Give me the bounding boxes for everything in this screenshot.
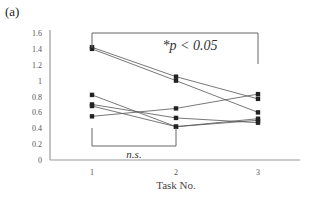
ns-bracket [92,128,176,146]
y-tick-label: 0.2 [32,140,42,149]
data-point-marker [174,74,178,78]
data-point-marker [256,110,260,114]
y-tick-label: 1.2 [32,61,42,70]
y-tick-label: 0.6 [32,108,42,117]
y-tick-label: 1.6 [32,29,42,38]
y-tick-label: 0.4 [32,124,42,133]
x-tick-label: 1 [90,168,94,177]
data-point-marker [256,92,260,96]
data-point-marker [256,120,260,124]
series-line [92,47,258,99]
x-axis-title: Task No. [156,179,196,191]
data-point-marker [256,117,260,121]
y-tick-label: 1 [38,77,42,86]
data-point-marker [90,114,94,118]
line-chart: 00.20.40.60.811.21.41.6123Task No.*p < 0… [0,0,313,197]
series-line [92,95,258,127]
data-point-marker [90,104,94,108]
y-tick-label: 0.8 [32,93,42,102]
data-point-marker [174,116,178,120]
y-tick-label: 1.4 [32,45,42,54]
data-point-marker [174,106,178,110]
data-point-marker [90,93,94,97]
x-tick-label: 3 [256,168,260,177]
series-line [92,94,258,116]
y-tick-label: 0 [38,156,42,165]
data-point-marker [174,78,178,82]
ns-label: n.s. [126,148,141,160]
significance-label: *p < 0.05 [163,38,218,53]
data-point-marker [256,97,260,101]
x-tick-label: 2 [174,168,178,177]
